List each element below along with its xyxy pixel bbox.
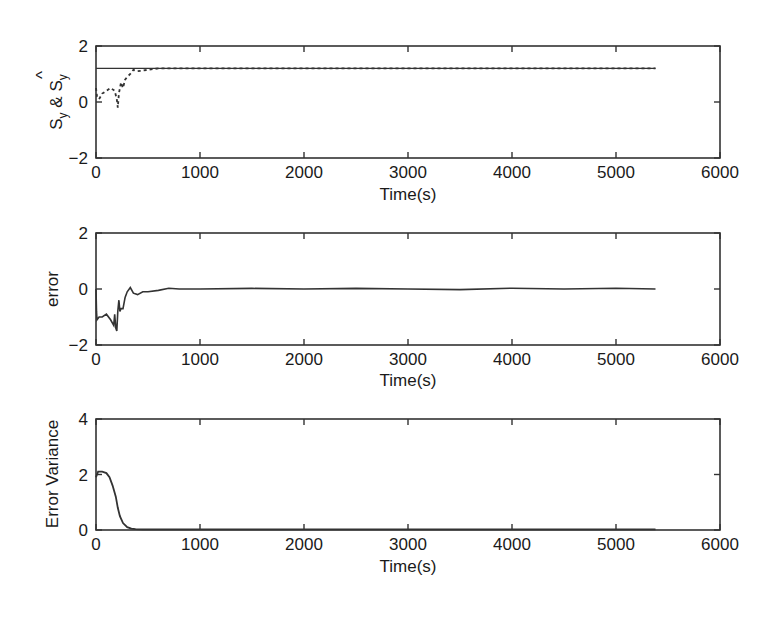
y-tick-label: 0: [79, 93, 88, 112]
y-tick-label: 0: [79, 280, 88, 299]
x-tick-label: 3000: [389, 350, 427, 369]
x-tick-label: 6000: [701, 535, 739, 554]
x-tick-label: 6000: [701, 350, 739, 369]
axes-frame-top: [96, 46, 720, 158]
x-axis-label-middle: Time(s): [380, 371, 437, 390]
axes-frame-bottom: [96, 419, 720, 530]
x-tick-label: 3000: [389, 535, 427, 554]
svg-text:^: ^: [33, 71, 52, 79]
y-axis-label-bottom: Error Variance: [43, 420, 62, 528]
x-tick-label: 5000: [597, 535, 635, 554]
x-tick-label: 4000: [493, 350, 531, 369]
y-tick-label: 4: [79, 410, 88, 429]
y-tick-label: 2: [79, 224, 88, 243]
x-tick-label: 0: [91, 163, 100, 182]
svg-text:Sy & Sy: Sy & Sy: [47, 74, 70, 130]
y-axis-label-top: Sy & Sy ^: [33, 71, 70, 130]
y-axis-label-middle: error: [43, 271, 62, 307]
x-tick-label: 1000: [181, 163, 219, 182]
x-tick-label: 6000: [701, 163, 739, 182]
y-tick-label: 2: [79, 37, 88, 56]
y-tick-label: 0: [79, 521, 88, 540]
x-tick-label: 0: [91, 350, 100, 369]
x-tick-label: 1000: [181, 350, 219, 369]
x-tick-label: 2000: [285, 535, 323, 554]
panel-top: 0100020003000400050006000 20−2 Time(s) S…: [33, 37, 739, 204]
x-axis-label-bottom: Time(s): [380, 557, 437, 576]
x-tick-label: 5000: [597, 163, 635, 182]
x-tick-label: 1000: [181, 535, 219, 554]
x-tick-label: 4000: [493, 163, 531, 182]
x-tick-label: 4000: [493, 535, 531, 554]
y-tick-label: 2: [79, 466, 88, 485]
x-tick-label: 2000: [285, 163, 323, 182]
y-tick-label: −2: [69, 336, 88, 355]
x-tick-label: 0: [91, 535, 100, 554]
panel-bottom: 0100020003000400050006000 420 Time(s) Er…: [43, 410, 739, 576]
x-tick-label: 3000: [389, 163, 427, 182]
x-tick-label: 5000: [597, 350, 635, 369]
x-axis-label-top: Time(s): [380, 185, 437, 204]
y-tick-label: −2: [69, 149, 88, 168]
figure: 0100020003000400050006000 20−2 Time(s) S…: [0, 0, 778, 619]
panel-middle: 0100020003000400050006000 20−2 Time(s) e…: [43, 224, 739, 390]
x-tick-label: 2000: [285, 350, 323, 369]
